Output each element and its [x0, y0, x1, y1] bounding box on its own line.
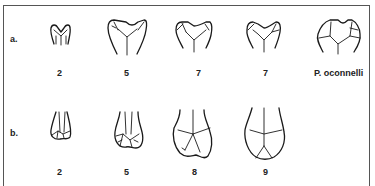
caption-a-oconnelli: P. oconnelli [314, 68, 363, 78]
caption-b-8: 8 [192, 167, 197, 177]
caption-b-5: 5 [124, 167, 129, 177]
tooth-b-2 [51, 112, 71, 139]
tooth-b-5 [115, 112, 143, 148]
caption-b-9: 9 [263, 167, 268, 177]
caption-a-7-second: 7 [263, 68, 268, 78]
caption-b-2: 2 [57, 167, 62, 177]
tooth-a-7-second [247, 22, 281, 52]
tooth-a-2 [51, 25, 71, 45]
caption-a-5: 5 [124, 68, 129, 78]
caption-a-7-first: 7 [196, 68, 201, 78]
tooth-b-8 [173, 110, 211, 158]
tooth-a-7-first [176, 22, 212, 52]
tooth-b-9 [245, 108, 285, 159]
caption-a-2: 2 [57, 68, 62, 78]
tooth-diagram [0, 0, 375, 186]
tooth-a-5 [108, 20, 147, 55]
tooth-a-oconnelli [317, 20, 360, 54]
